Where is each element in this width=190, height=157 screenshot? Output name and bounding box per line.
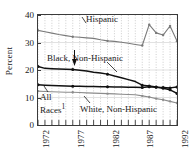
marker-all-races-1991 bbox=[169, 86, 172, 89]
x-tick-label-1977: 1977 bbox=[77, 130, 86, 148]
marker-hispanic-1987 bbox=[141, 44, 143, 46]
x-tick-label-1987: 1987 bbox=[146, 130, 155, 148]
x-tick-label-1992: 1992 bbox=[181, 130, 190, 148]
marker-all-races-1990 bbox=[162, 86, 165, 89]
marker-all-races-1987 bbox=[141, 86, 144, 89]
marker-black-non-hispanic-1977 bbox=[71, 68, 74, 71]
marker-all-races-1989 bbox=[155, 86, 158, 89]
marker-white-non-hispanic-1987 bbox=[141, 95, 143, 97]
x-tick-label-1972: 1972 bbox=[42, 130, 51, 148]
y-tick-label-10: 10 bbox=[25, 93, 34, 102]
x-tick-label-1982: 1982 bbox=[112, 130, 121, 148]
marker-hispanic-1972 bbox=[38, 29, 39, 31]
chart-figure: Percent 403020100 19721977198219871992 H… bbox=[0, 0, 190, 157]
marker-black-non-hispanic-1982 bbox=[106, 73, 109, 76]
y-tick-mark-40 bbox=[37, 15, 41, 16]
y-tick-label-40: 40 bbox=[25, 11, 34, 20]
y-tick-mark-30 bbox=[37, 43, 41, 44]
marker-white-non-hispanic-1977 bbox=[72, 91, 74, 93]
annotation-black-non-hispanic: Black, Non-Hispanic bbox=[47, 53, 123, 63]
marker-all-races-1982 bbox=[106, 85, 109, 88]
marker-white-non-hispanic-1988 bbox=[148, 96, 150, 98]
footnote-marker: 1 bbox=[62, 102, 66, 111]
marker-all-races-1977 bbox=[71, 85, 74, 88]
y-tick-mark-20 bbox=[37, 70, 41, 71]
y-tick-label-20: 20 bbox=[25, 66, 34, 75]
y-tick-mark-0 bbox=[37, 125, 41, 126]
marker-white-non-hispanic-1991 bbox=[169, 100, 171, 102]
annotation-all-races-line2: Races bbox=[40, 105, 62, 115]
y-tick-mark-10 bbox=[37, 98, 41, 99]
marker-hispanic-1982 bbox=[106, 40, 108, 42]
marker-hispanic-1991 bbox=[169, 25, 171, 27]
marker-all-races-1992 bbox=[176, 86, 178, 89]
marker-all-races-1988 bbox=[148, 85, 151, 88]
marker-white-non-hispanic-1990 bbox=[162, 99, 164, 101]
marker-hispanic-1977 bbox=[72, 36, 74, 38]
marker-white-non-hispanic-1992 bbox=[176, 102, 177, 104]
marker-hispanic-1988 bbox=[148, 23, 150, 25]
marker-white-non-hispanic-1989 bbox=[155, 97, 157, 99]
marker-hispanic-1992 bbox=[176, 40, 177, 42]
annotation-all-races: All Races1 bbox=[40, 92, 65, 115]
annotation-white-non-hispanic: White, Non-Hispanic bbox=[80, 104, 157, 114]
marker-all-races-1972 bbox=[38, 83, 40, 86]
y-tick-label-30: 30 bbox=[25, 38, 34, 47]
annotation-hispanic: Hispanic bbox=[86, 14, 118, 24]
x-axis-tick-labels: 19721977198219871992 bbox=[0, 126, 190, 157]
marker-white-non-hispanic-1982 bbox=[106, 92, 108, 94]
marker-hispanic-1990 bbox=[162, 34, 164, 36]
annotation-all-races-line1: All bbox=[40, 92, 52, 102]
marker-hispanic-1989 bbox=[155, 32, 157, 34]
